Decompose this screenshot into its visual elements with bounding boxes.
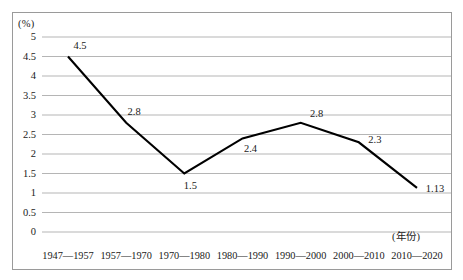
x-axis-unit-label: (年份) xyxy=(392,232,420,243)
y-axis-tick-label: 0 xyxy=(6,227,36,238)
data-point-label: 1.13 xyxy=(426,184,444,195)
y-axis-tick-label: 4.5 xyxy=(6,52,36,63)
y-axis-tick-label: 5 xyxy=(6,32,36,43)
y-axis-tick-label: 2.5 xyxy=(6,130,36,141)
data-point-label: 2.8 xyxy=(310,109,323,120)
y-axis-unit-label: (%) xyxy=(18,18,35,29)
y-axis-tick-label: 2 xyxy=(6,149,36,160)
y-axis-tick-label: 1.5 xyxy=(6,169,36,180)
x-axis-tick-label: 1947—1957 xyxy=(42,251,93,261)
x-axis-tick-label: 1957—1970 xyxy=(100,251,151,261)
y-axis-tick-label: 3.5 xyxy=(6,91,36,102)
x-axis-tick-label: 1990—2000 xyxy=(275,251,326,261)
y-axis-tick-label: 1 xyxy=(6,188,36,199)
data-point-label: 2.4 xyxy=(244,144,257,155)
x-axis-tick-label: 2010—2020 xyxy=(391,251,442,261)
x-axis-tick-label: 1970—1980 xyxy=(159,251,210,261)
y-axis-tick-label: 0.5 xyxy=(6,208,36,219)
y-axis-tick-label: 3 xyxy=(6,110,36,121)
x-axis-tick-label: 2000—2010 xyxy=(333,251,384,261)
data-point-label: 1.5 xyxy=(184,180,197,191)
y-axis-tick-label: 4 xyxy=(6,71,36,82)
x-axis-tick-label: 1980—1990 xyxy=(217,251,268,261)
data-point-label: 4.5 xyxy=(73,40,86,51)
line-chart: (%) 54.543.532.521.510.50 1947—19571957—… xyxy=(0,0,463,280)
data-point-label: 2.8 xyxy=(128,107,141,118)
data-point-label: 2.3 xyxy=(368,135,381,146)
